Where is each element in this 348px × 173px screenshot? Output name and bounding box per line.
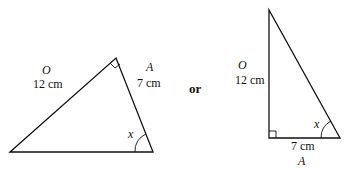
t2-adjacent-length: 7 cm bbox=[291, 140, 315, 153]
or-connector: or bbox=[189, 82, 201, 95]
t1-angle-label: x bbox=[128, 128, 133, 141]
t1-adjacent-length: 7 cm bbox=[137, 77, 161, 90]
t2-opposite-length: 12 cm bbox=[235, 74, 265, 87]
t2-opposite-letter: O bbox=[238, 59, 247, 72]
t2-angle-label: x bbox=[314, 118, 319, 131]
triangle-2 bbox=[269, 10, 340, 138]
t1-adjacent-letter: A bbox=[146, 61, 153, 74]
t1-opposite-length: 12 cm bbox=[33, 78, 63, 91]
t1-opposite-letter: O bbox=[42, 64, 51, 77]
t2-adjacent-letter: A bbox=[298, 155, 305, 168]
